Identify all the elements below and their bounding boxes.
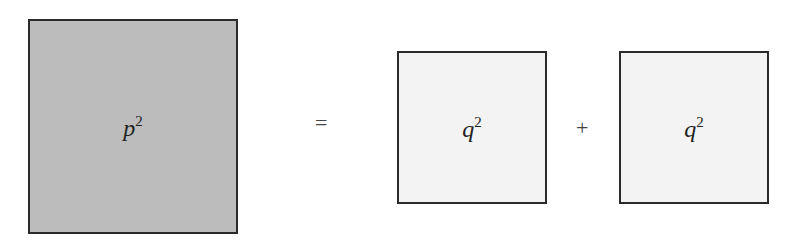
square-q-squared-1: q2: [397, 51, 547, 204]
equals-sign: =: [315, 112, 327, 134]
label-p-squared: p2: [123, 114, 143, 140]
square-p-squared: p2: [28, 19, 238, 234]
plus-sign: +: [576, 117, 588, 139]
square-q-squared-2: q2: [619, 51, 769, 204]
label-q-squared-2: q2: [684, 115, 704, 141]
label-q-squared-1: q2: [462, 115, 482, 141]
